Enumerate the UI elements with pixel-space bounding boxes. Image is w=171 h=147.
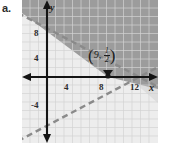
point-separator: , [99, 49, 102, 60]
y-tick-label-4: 4 [34, 54, 39, 63]
x-tick-label-8: 8 [99, 83, 104, 92]
paren-close: ) [110, 46, 116, 65]
y-tick-label-8: 8 [34, 29, 39, 38]
x-axis-label: x [149, 83, 154, 93]
y-tick-label-neg4: -4 [31, 101, 39, 110]
problem-label: a. [2, 2, 11, 14]
coordinate-graph: 8 4 -4 4 8 12 x y (9, 12) [22, 0, 158, 143]
graph-svg [22, 0, 158, 143]
intersection-point-dot [105, 73, 110, 78]
figure-root: a. [0, 0, 171, 147]
x-tick-label-4: 4 [64, 83, 69, 92]
y-axis-label: y [50, 3, 54, 13]
point-annotation: (9, 12) [88, 47, 115, 64]
x-tick-label-12: 12 [130, 83, 139, 92]
